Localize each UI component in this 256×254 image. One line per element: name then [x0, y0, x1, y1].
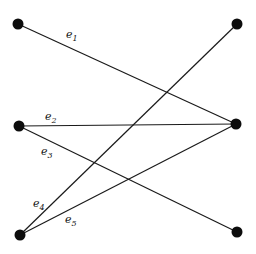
- node-right-2: [231, 119, 242, 130]
- edge-e5: [20, 124, 236, 235]
- edge-label-e4: e4: [33, 197, 45, 212]
- node-right-1: [232, 19, 243, 30]
- node-left-1: [13, 19, 24, 30]
- bipartite-graph: e1 e2 e3 e4 e5: [0, 0, 256, 254]
- node-left-2: [14, 121, 25, 132]
- edges: [18, 24, 237, 235]
- edge-labels: e1 e2 e3 e4 e5: [33, 28, 78, 228]
- node-right-3: [232, 227, 243, 238]
- edge-e1: [18, 24, 236, 124]
- edge-e4: [20, 24, 237, 235]
- edge-label-e2: e2: [45, 110, 57, 125]
- edge-label-e5: e5: [65, 213, 77, 228]
- edge-label-e1: e1: [66, 28, 78, 43]
- node-left-3: [15, 230, 26, 241]
- edge-label-e3: e3: [41, 145, 53, 160]
